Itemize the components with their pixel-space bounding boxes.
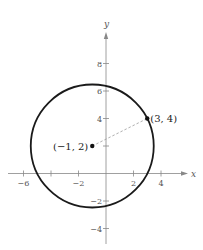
y-axis-label: y (103, 19, 110, 29)
y-tick-label: 8 (97, 60, 102, 69)
point-on-circle-label: (3, 4) (150, 113, 177, 124)
points: (−1, 2)(3, 4) (53, 113, 177, 152)
axes: xy (8, 19, 196, 244)
coordinate-plane: xy −6−224864−2−4 (−1, 2)(3, 4) (0, 0, 203, 250)
center-label: (−1, 2) (53, 141, 88, 152)
y-tick-label: 4 (97, 115, 102, 124)
x-tick-label: 2 (131, 179, 136, 188)
center-dot (90, 144, 94, 148)
x-tick-label: 4 (158, 179, 163, 188)
x-axis-arrow-icon (181, 171, 188, 175)
y-tick-label: −4 (90, 225, 102, 234)
x-axis-label: x (191, 169, 196, 179)
x-tick-label: −2 (73, 179, 85, 188)
y-tick-label: 6 (97, 87, 102, 96)
point-on-circle-dot (145, 116, 149, 120)
y-axis-arrow-icon (104, 32, 108, 39)
y-tick-label: −2 (90, 197, 102, 206)
x-tick-label: −6 (18, 179, 30, 188)
diagram-canvas: xy −6−224864−2−4 (−1, 2)(3, 4) (0, 0, 203, 250)
